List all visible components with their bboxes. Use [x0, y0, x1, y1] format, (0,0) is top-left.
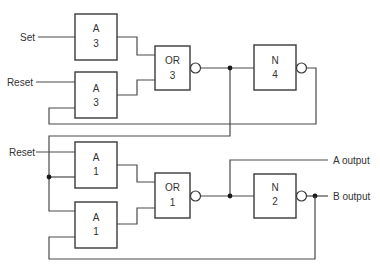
- gate-a3-bottom-num: 3: [93, 97, 99, 108]
- b-output-label: B output: [333, 191, 370, 202]
- gate-n2: N 2: [254, 174, 307, 218]
- gate-a1-bottom-type: A: [93, 212, 100, 223]
- a1-top-to-or1-wire: [117, 165, 155, 182]
- gate-n2-num: 2: [272, 196, 278, 207]
- gate-a1-top-num: 1: [93, 166, 99, 177]
- a3-bottom-to-or3-wire: [117, 80, 155, 95]
- inverter-bubble-icon: [297, 191, 307, 201]
- inverter-bubble-icon: [297, 63, 307, 73]
- gate-a3-bottom-type: A: [93, 83, 100, 94]
- gate-n4-type: N: [271, 55, 278, 66]
- logic-diagram: Set Reset A 3 A 3 OR 3 N 4 Reset: [0, 0, 380, 269]
- a1-bottom-to-or1-wire: [117, 208, 155, 224]
- gate-or1: OR 1: [155, 173, 201, 218]
- a3-top-to-or3-wire: [117, 37, 155, 55]
- gate-n4: N 4: [254, 45, 307, 90]
- reset-bottom-label: Reset: [9, 147, 35, 158]
- inverter-bubble-icon: [191, 63, 201, 73]
- junction-dot-icon: [228, 194, 233, 199]
- gate-n2-type: N: [271, 182, 278, 193]
- gate-a1-top: A 1: [75, 142, 117, 188]
- inverter-bubble-icon: [191, 191, 201, 201]
- gate-a3-top-num: 3: [93, 38, 99, 49]
- gate-a3-top: A 3: [75, 14, 117, 60]
- gate-a1-bottom: A 1: [75, 202, 117, 248]
- gate-or1-num: 1: [170, 197, 176, 208]
- gate-a3-bottom: A 3: [75, 72, 117, 118]
- junction-dot-icon: [47, 175, 52, 180]
- gate-a1-top-type: A: [93, 152, 100, 163]
- junction-dot-icon: [228, 66, 233, 71]
- gate-a1-bottom-num: 1: [93, 226, 99, 237]
- set-label: Set: [20, 32, 35, 43]
- a-output-label: A output: [333, 155, 370, 166]
- gate-or3-type: OR: [165, 55, 180, 66]
- gate-a3-top-type: A: [93, 23, 100, 34]
- gate-or3: OR 3: [155, 46, 201, 90]
- reset-top-label: Reset: [7, 77, 33, 88]
- gate-or3-num: 3: [170, 70, 176, 81]
- gate-or1-type: OR: [165, 182, 180, 193]
- gate-n4-num: 4: [272, 69, 278, 80]
